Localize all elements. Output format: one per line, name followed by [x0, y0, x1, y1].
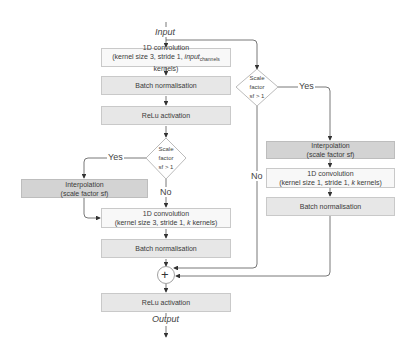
- skip-yes-line: [278, 87, 330, 140]
- output-label: Output: [152, 314, 179, 324]
- conv1-box: 1D convolution (kernel size 3, stride 1,…: [101, 48, 231, 67]
- decision-main-no-label: No: [160, 187, 172, 197]
- decision-skip-text: Scale factor sf > 1: [242, 74, 272, 101]
- bn-skip-box: Batch normalisation: [266, 197, 395, 216]
- input-label: Input: [155, 27, 175, 37]
- decision-skip-no-label: No: [251, 171, 263, 181]
- conv2-box: 1D convolution (kernel size 3, stride 1,…: [101, 208, 231, 228]
- bn1-box: Batch normalisation: [101, 76, 231, 95]
- interp-to-conv2-line: [84, 198, 100, 218]
- conv-skip-box: 1D convolution (kernel size 1, stride 1,…: [266, 168, 395, 188]
- relu1-box: ReLu activation: [101, 106, 231, 125]
- decision-main-text: Scale factor sf > 1: [151, 145, 181, 172]
- conv1-line1: 1D convolution: [143, 43, 189, 52]
- bn2-box: Batch normalisation: [101, 239, 231, 258]
- decision-skip-yes-label: Yes: [298, 81, 315, 91]
- interp-main-box: Interpolation (scale factor sf): [21, 179, 148, 198]
- decision-main-yes-label: Yes: [107, 152, 124, 162]
- relu-out-box: ReLu activation: [101, 293, 231, 312]
- conv1-line2: (kernel size 3, stride 1, inputchannels …: [102, 52, 230, 73]
- add-symbol: +: [161, 267, 169, 282]
- interp-skip-box: Interpolation (scale factor sf): [266, 141, 395, 159]
